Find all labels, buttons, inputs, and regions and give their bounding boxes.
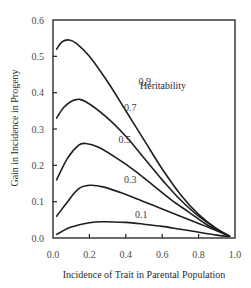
plot-frame xyxy=(53,20,235,238)
y-tick-label: 0.5 xyxy=(32,51,45,62)
curve-label-0-5: 0.5 xyxy=(119,134,131,145)
y-tick-label: 0.1 xyxy=(32,196,45,207)
y-tick-label: 0.4 xyxy=(32,87,45,98)
curve-label-0-1: 0.1 xyxy=(135,209,148,220)
curve-h-0-9 xyxy=(57,40,230,236)
curve-h-0-1 xyxy=(57,222,230,237)
y-tick-label: 0.6 xyxy=(32,15,45,26)
plot-area-border xyxy=(53,20,235,238)
curve-label-0-3: 0.3 xyxy=(124,174,137,185)
x-tick-label: 1.0 xyxy=(229,249,242,260)
x-tick-label: 0.0 xyxy=(47,249,60,260)
y-tick-label: 0.0 xyxy=(32,233,45,244)
curve-label-0-7: 0.7 xyxy=(124,102,137,113)
y-tick-label: 0.3 xyxy=(32,124,45,135)
legend-title: Heritability xyxy=(140,80,186,91)
curves xyxy=(57,40,230,237)
heritability-gain-chart: 0.00.20.40.60.81.00.00.10.20.30.40.50.6 … xyxy=(0,0,251,288)
x-tick-label: 0.4 xyxy=(120,249,133,260)
y-axis-title: Gain in Incidence in Progeny xyxy=(9,69,20,186)
x-axis-title: Incidence of Trait in Parental Populatio… xyxy=(63,269,225,280)
x-tick-label: 0.6 xyxy=(156,249,169,260)
x-tick-label: 0.8 xyxy=(192,249,205,260)
y-tick-label: 0.2 xyxy=(32,160,45,171)
x-tick-label: 0.2 xyxy=(83,249,96,260)
